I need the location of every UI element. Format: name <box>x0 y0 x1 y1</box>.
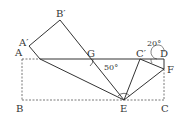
original-rectangle <box>22 59 164 100</box>
geometry-diagram: B′ A′ A G C′ D F B E C 50° 20° <box>0 0 182 122</box>
label-B-prime: B′ <box>56 8 66 19</box>
angle-label-D: 20° <box>147 39 161 48</box>
label-D: D <box>160 48 168 59</box>
angle-label-G: 50° <box>104 63 118 72</box>
label-C: C <box>161 103 169 114</box>
label-E: E <box>120 103 127 114</box>
label-C-prime: C′ <box>136 48 147 59</box>
label-G: G <box>87 48 95 59</box>
label-B: B <box>16 103 23 114</box>
folded-shape <box>29 20 164 100</box>
label-F: F <box>167 64 174 75</box>
angle-arc-E <box>118 93 130 96</box>
label-A: A <box>14 47 23 58</box>
angle-arc-C-prime <box>151 59 152 63</box>
